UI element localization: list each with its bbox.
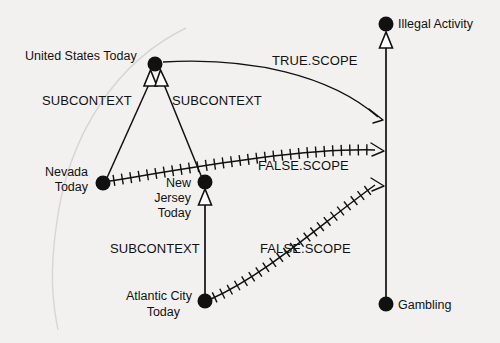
node-dot-nevada-today[interactable]: [96, 176, 111, 191]
node-label-nevada-today-line-2: Today: [55, 180, 89, 194]
node-dot-atlantic-city-today[interactable]: [198, 294, 213, 309]
node-label-atlantic-city-today-line-2: Today: [147, 305, 181, 319]
node-label-new-jersey-today-line-1: New: [166, 176, 192, 190]
node-label-new-jersey-today: New Jersey Today: [154, 176, 192, 220]
node-label-atlantic-city-today-line-1: Atlantic City: [126, 289, 193, 303]
node-label-gambling: Gambling: [398, 298, 452, 312]
hollow-triangle-arrowhead-new-jersey: [155, 70, 168, 86]
edge-subcontext-atlantic-city[interactable]: [199, 189, 212, 298]
edge-label-false-scope-nevada: FALSE.SCOPE: [258, 158, 349, 173]
hollow-triangle-arrowhead-atlantic-city: [199, 189, 212, 205]
node-label-illegal-activity: Illegal Activity: [398, 17, 474, 31]
node-label-new-jersey-today-line-3: Today: [158, 206, 192, 220]
node-dot-united-states-today[interactable]: [148, 57, 163, 72]
node-dot-new-jersey-today[interactable]: [198, 175, 213, 190]
edge-label-subcontext-new-jersey: SUBCONTEXT: [172, 93, 262, 108]
edge-label-true-scope: TRUE.SCOPE: [272, 53, 358, 68]
open-arrowhead-false-scope-atlantic-city: [371, 178, 384, 191]
node-dot-gambling[interactable]: [379, 297, 394, 312]
node-label-new-jersey-today-line-2: Jersey: [154, 191, 192, 205]
hollow-triangle-arrowhead-illegal-activity: [380, 32, 393, 48]
edge-gambling-illegal-activity[interactable]: [380, 32, 393, 301]
edge-label-false-scope-atlantic-city: FALSE.SCOPE: [260, 241, 351, 256]
node-label-united-states-today: United States Today: [25, 49, 137, 63]
node-label-nevada-today: Nevada Today: [45, 165, 89, 194]
edge-label-subcontext-nevada: SUBCONTEXT: [42, 93, 132, 108]
edge-curve-true-scope: [163, 61, 378, 117]
edge-label-subcontext-atlantic-city: SUBCONTEXT: [110, 241, 200, 256]
node-label-nevada-today-line-1: Nevada: [45, 165, 88, 179]
node-label-atlantic-city-today: Atlantic City Today: [126, 289, 193, 319]
context-graph-canvas: United States Today Illegal Activity Nev…: [0, 0, 500, 343]
node-dot-illegal-activity[interactable]: [379, 17, 394, 32]
edge-subcontext-new-jersey[interactable]: [155, 70, 202, 178]
